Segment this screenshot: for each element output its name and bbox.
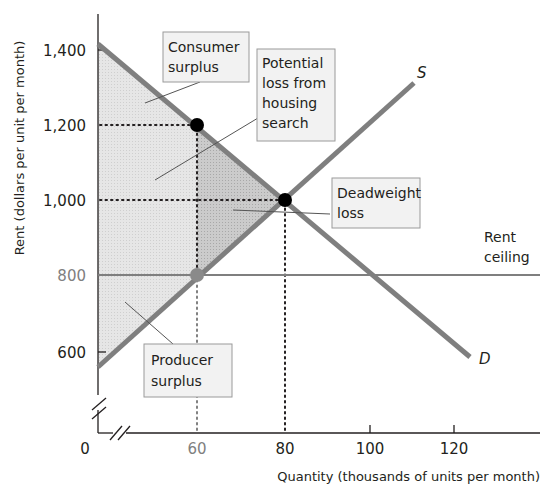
producer-surplus-annotation: Producer surplus [144,344,232,397]
consumer-surplus-line2: surplus [168,59,219,75]
equilibrium-point [278,193,292,207]
y-tick-1200: 1,200 [43,117,86,135]
y-axis-title: Rent (dollars per unit per month) [12,41,27,256]
producer-surplus-line2: surplus [151,373,202,389]
rent-ceiling-annotation: Rent ceiling [484,229,530,265]
x-tick-60: 60 [187,440,206,458]
housing-search-line4: search [262,115,309,131]
demand-label: D [479,350,491,368]
deadweight-loss-annotation: Deadweight loss [332,178,422,228]
housing-search-annotation: Potential loss from housing search [257,49,335,141]
y-tick-1400: 1,400 [43,42,86,60]
x-tick-80: 80 [275,440,294,458]
y-tick-800: 800 [57,267,86,285]
housing-search-line1: Potential [262,55,323,71]
x-tick-100: 100 [356,440,385,458]
deadweight-loss-line1: Deadweight [337,185,422,201]
rent-ceiling-line2: ceiling [484,249,530,265]
housing-search-line3: housing [262,95,317,111]
producer-surplus-line1: Producer [151,352,213,368]
x-tick-0: 0 [80,440,90,458]
x-axis-title: Quantity (thousands of units per month) [277,469,540,484]
x-tick-120: 120 [440,440,469,458]
point-q60-p800 [190,268,204,282]
consumer-surplus-line1: Consumer [168,39,240,55]
y-tick-1000: 1,000 [43,192,86,210]
deadweight-loss-line2: loss [337,205,364,221]
chart-canvas: 1,400 1,200 1,000 800 600 0 60 80 100 12… [0,0,545,488]
supply-label: S [417,64,427,82]
point-q60-p1200 [190,118,204,132]
rent-ceiling-line1: Rent [484,229,517,245]
housing-search-line2: loss from [262,75,326,91]
y-tick-600: 600 [57,344,86,362]
consumer-surplus-annotation: Consumer surplus [163,32,249,82]
